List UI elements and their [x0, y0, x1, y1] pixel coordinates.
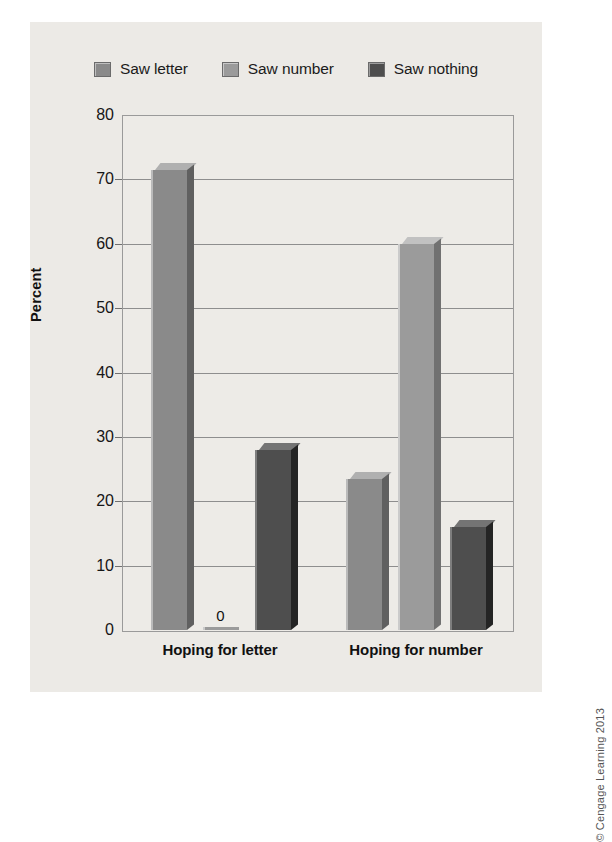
- bar-side-face: [486, 522, 493, 630]
- y-tick-label-40: 40: [96, 364, 114, 382]
- legend-item-saw-letter: Saw letter: [94, 60, 188, 78]
- y-tick-mark-30: [115, 437, 122, 438]
- y-tick-mark-60: [115, 244, 122, 245]
- legend-swatch-saw-number: [222, 62, 239, 77]
- y-tick-label-70: 70: [96, 170, 114, 188]
- bar-face: [255, 450, 291, 630]
- bar-face: [450, 527, 486, 630]
- bar-side-face: [434, 238, 441, 630]
- x-axis-labels: Hoping for letter Hoping for number: [122, 641, 514, 658]
- bar-group-hoping-for-letter: 0: [123, 116, 318, 630]
- y-tick-mark-70: [115, 179, 122, 180]
- bar-face: [203, 627, 239, 630]
- figure-panel: Saw letter Saw number Saw nothing 807060…: [30, 22, 542, 692]
- y-tick-label-10: 10: [96, 557, 114, 575]
- bar-saw-nothing-hoping-for-number: [450, 527, 486, 630]
- x-axis-label-hoping-for-number: Hoping for number: [318, 641, 514, 658]
- legend-swatch-saw-letter: [94, 62, 111, 77]
- y-tick-label-60: 60: [96, 235, 114, 253]
- y-tick-label-80: 80: [96, 106, 114, 124]
- bar-saw-number-hoping-for-letter: 0: [203, 627, 239, 630]
- bar-saw-letter-hoping-for-number: [346, 479, 382, 630]
- y-tick-mark-50: [115, 308, 122, 309]
- y-tick-label-20: 20: [96, 492, 114, 510]
- bar-side-face: [382, 473, 389, 630]
- bar-side-face: [291, 444, 298, 630]
- copyright-credit: © Cengage Learning 2013: [594, 708, 606, 842]
- legend-item-saw-nothing: Saw nothing: [368, 60, 478, 78]
- y-tick-mark-20: [115, 501, 122, 502]
- bar-face: [398, 244, 434, 630]
- y-tick-mark-10: [115, 566, 122, 567]
- bar-saw-nothing-hoping-for-letter: [255, 450, 291, 630]
- bar-side-face: [187, 164, 194, 630]
- y-tick-label-0: 0: [105, 621, 114, 639]
- y-tick-mark-40: [115, 373, 122, 374]
- chart-legend: Saw letter Saw number Saw nothing: [30, 60, 542, 78]
- bar-value-label: 0: [203, 607, 239, 624]
- legend-label-saw-nothing: Saw nothing: [394, 60, 478, 78]
- x-axis-label-hoping-for-letter: Hoping for letter: [122, 641, 318, 658]
- y-tick-label-30: 30: [96, 428, 114, 446]
- bar-saw-number-hoping-for-number: [398, 244, 434, 630]
- bars-container: 0: [123, 116, 513, 630]
- bar-saw-letter-hoping-for-letter: [151, 170, 187, 630]
- legend-label-saw-letter: Saw letter: [120, 60, 188, 78]
- y-axis-title: Percent: [28, 267, 44, 322]
- bar-face: [151, 170, 187, 630]
- legend-item-saw-number: Saw number: [222, 60, 334, 78]
- bar-face: [346, 479, 382, 630]
- y-tick-label-50: 50: [96, 299, 114, 317]
- bar-group-hoping-for-number: [318, 116, 513, 630]
- legend-swatch-saw-nothing: [368, 62, 385, 77]
- legend-label-saw-number: Saw number: [248, 60, 334, 78]
